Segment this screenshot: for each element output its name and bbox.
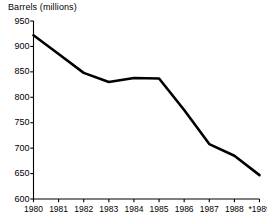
plot-area	[0, 0, 267, 223]
y-tick-label: 750	[6, 118, 30, 127]
chart-svg	[0, 0, 267, 223]
y-tick-label: 950	[6, 17, 30, 26]
y-tick-label: 900	[6, 42, 30, 51]
x-tick-label: 1982	[71, 205, 97, 214]
y-tick-label: 650	[6, 169, 30, 178]
y-tick-label: 850	[6, 67, 30, 76]
line-chart: Barrels (millions) 600650700750800850900…	[0, 0, 267, 223]
axes	[34, 21, 260, 199]
x-tick-label: 1980	[21, 205, 47, 214]
x-tick-label: 1988	[221, 205, 247, 214]
x-tick-label: *1989	[247, 205, 268, 214]
data-series-line	[34, 35, 260, 175]
y-tick-label: 800	[6, 93, 30, 102]
tick-marks	[30, 21, 259, 202]
x-tick-label: 1983	[96, 205, 122, 214]
x-tick-label: 1984	[121, 205, 147, 214]
x-tick-label: 1986	[171, 205, 197, 214]
x-tick-label: 1987	[196, 205, 222, 214]
y-tick-label: 600	[6, 195, 30, 204]
x-tick-label: 1981	[46, 205, 72, 214]
y-tick-label: 700	[6, 144, 30, 153]
x-tick-label: 1985	[146, 205, 172, 214]
